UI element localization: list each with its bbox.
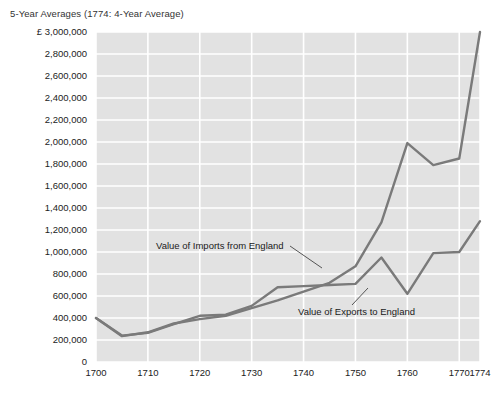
y-tick-label: 800,000 <box>53 268 87 279</box>
y-tick-label: 2,600,000 <box>45 70 87 81</box>
x-tick-label: 1720 <box>189 367 210 378</box>
y-tick-label: 1,400,000 <box>45 202 87 213</box>
plot-background-group <box>96 32 480 362</box>
y-tick-label: 2,200,000 <box>45 114 87 125</box>
annotation-label: Value of Exports to England <box>298 306 415 317</box>
x-tick-label: 1760 <box>397 367 418 378</box>
y-tick-label: 2,400,000 <box>45 92 87 103</box>
y-axis-tick-labels: £ 3,000,0002,800,0002,600,0002,400,0002,… <box>37 26 87 367</box>
y-tick-label: 600,000 <box>53 290 87 301</box>
x-tick-label: 1710 <box>137 367 158 378</box>
chart-container: 5-Year Averages (1774: 4-Year Average) £… <box>0 0 495 401</box>
y-tick-label: 200,000 <box>53 334 87 345</box>
x-tick-label: 1740 <box>293 367 314 378</box>
chart-plot-svg: £ 3,000,0002,800,0002,600,0002,400,0002,… <box>0 0 495 401</box>
x-tick-label: 1750 <box>345 367 366 378</box>
y-tick-label: 2,000,000 <box>45 136 87 147</box>
y-tick-label: 1,600,000 <box>45 180 87 191</box>
x-tick-label: 1730 <box>241 367 262 378</box>
y-tick-label: £ 3,000,000 <box>37 26 87 37</box>
y-tick-label: 1,200,000 <box>45 224 87 235</box>
y-tick-label: 2,800,000 <box>45 48 87 59</box>
y-tick-label: 400,000 <box>53 312 87 323</box>
annotation-label: Value of Imports from England <box>156 240 284 251</box>
x-axis-tick-labels: 170017101720173017401750176017701774 <box>85 367 490 378</box>
y-tick-label: 0 <box>82 356 87 367</box>
y-tick-label: 1,000,000 <box>45 246 87 257</box>
y-tick-label: 1,800,000 <box>45 158 87 169</box>
plot-background <box>96 32 480 362</box>
x-tick-label: 1700 <box>85 367 106 378</box>
x-tick-label: 1774 <box>469 367 490 378</box>
x-tick-label: 1770 <box>449 367 470 378</box>
